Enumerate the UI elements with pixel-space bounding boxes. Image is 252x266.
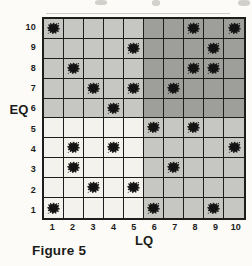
x-tick-label: 9	[205, 222, 225, 233]
grid-cell	[144, 39, 164, 59]
grid-cell	[124, 99, 144, 119]
grid-cell	[204, 79, 224, 99]
grid-cell	[224, 118, 244, 138]
grid-cell	[44, 99, 64, 119]
grid-cell	[84, 138, 104, 158]
grid-cell	[184, 79, 204, 99]
grid-cell	[184, 39, 204, 59]
y-tick-label: 7	[0, 78, 36, 98]
grid-cell	[124, 138, 144, 158]
grid-cell	[64, 118, 84, 138]
grid-cell	[104, 79, 124, 99]
y-tick-label: 8	[0, 58, 36, 78]
grid-cell	[224, 158, 244, 178]
grid-cell	[64, 138, 84, 158]
x-tick-label: 2	[62, 222, 82, 233]
grid-cell	[124, 39, 144, 59]
grid-cell	[84, 178, 104, 198]
grid-cell	[224, 79, 244, 99]
x-tick-label: 7	[164, 222, 184, 233]
grid-cell	[104, 178, 124, 198]
grid-cell	[224, 59, 244, 79]
ink-splat-icon	[126, 41, 141, 56]
grid-cell	[204, 178, 224, 198]
grid-cell	[44, 59, 64, 79]
x-tick-label: 1	[42, 222, 62, 233]
grid-cell	[44, 79, 64, 99]
ink-splat-icon	[227, 21, 242, 36]
grid-cell	[204, 39, 224, 59]
grid-cell	[104, 99, 124, 119]
grid-cell	[144, 198, 164, 218]
grid-cell	[164, 19, 184, 39]
grid-cell	[224, 19, 244, 39]
y-tick-label: 3	[0, 159, 36, 179]
ink-splat-icon	[186, 61, 201, 76]
cutoff-text-artifact	[152, 0, 160, 6]
grid-cell	[124, 198, 144, 218]
grid-cell	[224, 178, 244, 198]
grid-cell	[144, 178, 164, 198]
ink-splat-icon	[206, 61, 221, 76]
grid-cell	[164, 138, 184, 158]
y-tick-label: 1	[0, 200, 36, 220]
ink-splat-icon	[146, 201, 161, 216]
grid-cell	[144, 19, 164, 39]
grid-cell	[44, 138, 64, 158]
grid-cell	[104, 138, 124, 158]
ink-splat-icon	[66, 160, 81, 175]
grid-cell	[44, 178, 64, 198]
grid-cell	[144, 118, 164, 138]
grid-cell	[144, 158, 164, 178]
grid-cell	[204, 138, 224, 158]
grid-cell	[184, 118, 204, 138]
ink-splat-icon	[86, 81, 101, 96]
ink-splat-icon	[66, 61, 81, 76]
grid-cell	[44, 158, 64, 178]
grid-cell	[84, 79, 104, 99]
grid-cell	[164, 118, 184, 138]
grid-cell	[224, 99, 244, 119]
figure-caption: Figure 5	[32, 243, 86, 258]
x-tick-label: 6	[144, 222, 164, 233]
grid-cell	[64, 99, 84, 119]
x-tick-label: 3	[83, 222, 103, 233]
plot-grid	[42, 17, 246, 220]
scanned-figure-page: 10987654321 EQ 12345678910 LQ Figure 5	[0, 0, 252, 266]
grid-cell	[64, 39, 84, 59]
ink-splat-icon	[46, 21, 61, 36]
ink-splat-icon	[46, 201, 61, 216]
ink-splat-icon	[186, 120, 201, 135]
grid-cell	[204, 99, 224, 119]
grid-cell	[204, 19, 224, 39]
ink-splat-icon	[146, 120, 161, 135]
y-tick-label: 9	[0, 37, 36, 57]
grid-cell	[64, 59, 84, 79]
x-tick-label: 4	[103, 222, 123, 233]
ink-splat-icon	[66, 140, 81, 155]
grid-cell	[124, 19, 144, 39]
grid-cell	[144, 99, 164, 119]
grid-cell	[184, 59, 204, 79]
grid-cell	[164, 79, 184, 99]
grid-cell	[84, 99, 104, 119]
grid-cell	[144, 79, 164, 99]
y-axis-title: EQ	[2, 102, 36, 117]
y-tick-label: 5	[0, 118, 36, 138]
grid-cell	[104, 19, 124, 39]
ink-splat-icon	[227, 140, 242, 155]
ink-splat-icon	[86, 180, 101, 195]
grid-cell	[184, 158, 204, 178]
y-tick-label: 4	[0, 139, 36, 159]
grid-cell	[84, 118, 104, 138]
grid-cell	[204, 198, 224, 218]
grid-cell	[44, 19, 64, 39]
grid-cell	[64, 198, 84, 218]
grid-cell	[84, 19, 104, 39]
ink-splat-icon	[166, 81, 181, 96]
x-tick-label: 5	[124, 222, 144, 233]
grid-cell	[184, 138, 204, 158]
grid-cell	[164, 198, 184, 218]
grid-cell	[104, 59, 124, 79]
grid-cell	[204, 118, 224, 138]
